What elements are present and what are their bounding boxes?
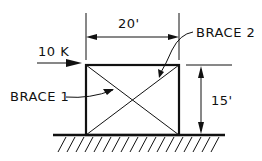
ground-hatching <box>58 137 219 152</box>
load-arrow <box>37 59 82 67</box>
width-dimension-label: 20' <box>118 16 140 31</box>
brace-1-label: BRACE 1 <box>10 89 69 104</box>
load-label: 10 K <box>38 44 69 59</box>
braced-frame-diagram: 20' 15' 10 K BRACE 1 BRACE 2 <box>0 0 262 161</box>
brace-2-leader <box>160 32 193 74</box>
arrowhead-down-icon <box>198 122 204 134</box>
height-dimension-label: 15' <box>211 93 233 108</box>
brace-2-label: BRACE 2 <box>196 25 255 40</box>
load-arrowhead-icon <box>66 59 82 67</box>
brace-1-arrowhead-icon <box>103 89 114 95</box>
arrowhead-left-icon <box>86 34 97 40</box>
arrowhead-up-icon <box>198 66 204 78</box>
arrowhead-right-icon <box>168 34 179 40</box>
